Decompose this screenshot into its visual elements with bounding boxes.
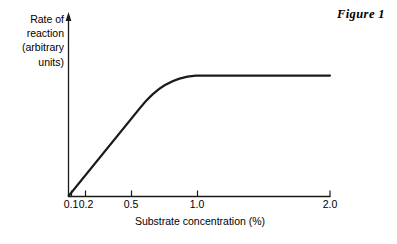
y-axis-arrowhead-icon: [66, 12, 72, 21]
figure-container: Figure 1 Rate of reaction (arbitrary uni…: [0, 0, 397, 244]
x-tick-label-3: 1.0: [190, 198, 205, 210]
reaction-rate-curve: [69, 76, 330, 196]
x-axis-ticks: [72, 191, 331, 197]
x-tick-label-2: 0.5: [124, 198, 139, 210]
x-tick-label-0: 0.1: [64, 198, 79, 210]
x-axis-title: Substrate concentration (%): [135, 215, 265, 227]
x-tick-label-4: 2.0: [323, 198, 338, 210]
x-tick-label-1: 0.2: [79, 198, 94, 210]
